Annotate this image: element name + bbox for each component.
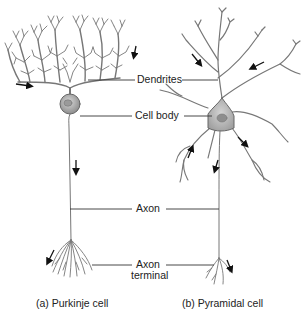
label-dendrites: Dendrites	[137, 74, 182, 85]
arrow-icon	[227, 260, 231, 270]
pyramidal-apical-dendrite	[182, 8, 300, 98]
arrow-icon	[192, 54, 200, 64]
purkinje-cell	[5, 15, 129, 277]
pyramidal-basal-dendrites	[160, 84, 288, 182]
label-axon-terminal-line2: terminal	[131, 270, 165, 281]
pyramidal-axon-terminal	[206, 258, 230, 284]
label-axon: Axon	[136, 203, 160, 214]
arrow-icon	[16, 84, 30, 86]
purkinje-dendrite-twigs	[5, 15, 129, 82]
purkinje-axon-terminal	[52, 240, 92, 277]
label-axon-terminal: Axon terminal	[131, 259, 165, 281]
caption-purkinje-cell: (a) Purkinje cell	[36, 297, 108, 309]
purkinje-nucleus	[64, 100, 72, 106]
arrow-icon	[215, 160, 218, 170]
purkinje-axon	[69, 114, 71, 240]
neuron-diagram: Dendrites Cell body Axon Axon terminal (…	[0, 0, 306, 316]
pyramidal-nucleus	[217, 114, 227, 122]
leader-lines	[70, 80, 219, 265]
arrow-icon	[252, 62, 264, 68]
caption-pyramidal-cell: (b) Pyramidal cell	[182, 297, 263, 309]
arrow-icon	[134, 46, 136, 56]
pyramidal-cell	[160, 8, 300, 284]
pyramidal-axon	[219, 131, 220, 258]
label-cell-body: Cell body	[135, 110, 179, 121]
arrow-icon	[48, 250, 54, 262]
